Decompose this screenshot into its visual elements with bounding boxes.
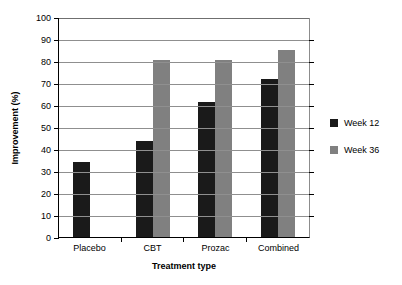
y-tick-mark	[54, 128, 59, 129]
y-tick-mark-right	[309, 84, 314, 85]
legend-item-week-12[interactable]: Week 12	[330, 118, 379, 128]
x-tick-label-combined: Combined	[247, 243, 310, 253]
gridline	[59, 172, 309, 173]
x-axis-title: Treatment type	[58, 261, 310, 271]
gridline	[59, 106, 309, 107]
gridline	[59, 40, 309, 41]
y-tick-mark	[54, 150, 59, 151]
x-tick-label-cbt: CBT	[121, 243, 184, 253]
bar-chart-figure: Improvement (%) 0102030405060708090100 P…	[0, 0, 402, 285]
y-tick-mark	[54, 216, 59, 217]
bar-prozac-week-36[interactable]	[215, 60, 232, 237]
chart-legend: Week 12Week 36	[330, 118, 379, 172]
bar-cbt-week-36[interactable]	[153, 60, 170, 237]
y-tick-mark-right	[309, 194, 314, 195]
plot-area: 0102030405060708090100	[58, 18, 310, 238]
y-tick-mark	[54, 194, 59, 195]
gridline	[59, 18, 309, 19]
legend-label: Week 36	[344, 145, 379, 155]
y-tick-mark-right	[309, 172, 314, 173]
y-tick-mark	[54, 238, 59, 239]
x-axis-category-separator	[183, 237, 184, 242]
y-tick-label: 70	[41, 79, 51, 89]
bar-cbt-week-12[interactable]	[136, 141, 153, 237]
x-tick-label-prozac: Prozac	[184, 243, 247, 253]
bar-combined-week-12[interactable]	[261, 79, 278, 237]
y-tick-mark	[54, 18, 59, 19]
y-tick-label: 20	[41, 189, 51, 199]
gridline	[59, 216, 309, 217]
legend-item-week-36[interactable]: Week 36	[330, 145, 379, 155]
y-tick-label: 60	[41, 101, 51, 111]
y-tick-mark-right	[309, 128, 314, 129]
y-tick-mark-right	[309, 106, 314, 107]
y-tick-label: 40	[41, 145, 51, 155]
y-tick-mark-right	[309, 216, 314, 217]
legend-label: Week 12	[344, 118, 379, 128]
gridline	[59, 150, 309, 151]
y-axis-title: Improvement (%)	[6, 18, 22, 238]
y-tick-label: 0	[46, 233, 51, 243]
y-tick-mark	[54, 40, 59, 41]
gridline	[59, 194, 309, 195]
legend-swatch-icon	[330, 146, 338, 154]
y-tick-label: 50	[41, 123, 51, 133]
y-tick-mark-right	[309, 62, 314, 63]
y-tick-label: 80	[41, 57, 51, 67]
x-tick-label-placebo: Placebo	[58, 243, 121, 253]
y-tick-label: 30	[41, 167, 51, 177]
x-axis-category-separator	[246, 237, 247, 242]
gridline	[59, 62, 309, 63]
y-axis-title-text: Improvement (%)	[9, 91, 19, 164]
bar-placebo-week-12[interactable]	[73, 162, 90, 237]
y-tick-mark	[54, 84, 59, 85]
legend-swatch-icon	[330, 119, 338, 127]
x-axis-category-separator	[121, 237, 122, 242]
x-axis-tick-labels: PlaceboCBTProzacCombined	[58, 243, 310, 253]
y-tick-label: 10	[41, 211, 51, 221]
y-tick-mark	[54, 62, 59, 63]
y-tick-mark	[54, 172, 59, 173]
y-tick-mark-right	[309, 40, 314, 41]
y-tick-mark	[54, 106, 59, 107]
gridline	[59, 84, 309, 85]
y-tick-label: 100	[36, 13, 51, 23]
y-tick-mark-right	[309, 150, 314, 151]
bar-combined-week-36[interactable]	[278, 50, 295, 237]
y-tick-label: 90	[41, 35, 51, 45]
gridline	[59, 128, 309, 129]
